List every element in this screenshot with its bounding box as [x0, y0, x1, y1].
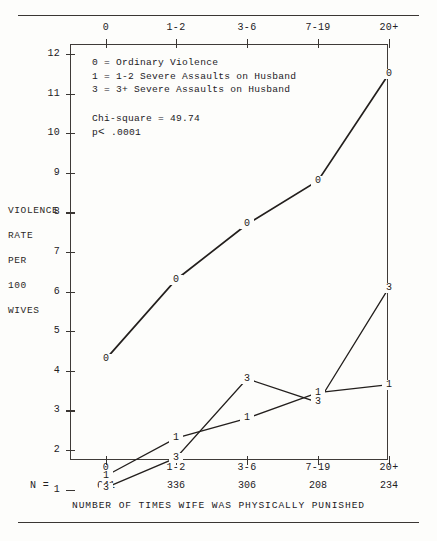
y-axis-tick — [66, 490, 75, 491]
x-axis-tick-top — [247, 39, 248, 48]
y-axis-title-line: RATE — [6, 223, 68, 248]
x-axis-label-top: 0 — [76, 22, 136, 33]
x-axis-tick-top — [176, 39, 177, 48]
data-point-marker-1: 1 — [240, 413, 254, 423]
y-axis-tick-label: 7 — [34, 246, 60, 257]
data-point-marker-0: 0 — [169, 275, 183, 285]
y-axis-tick — [66, 371, 75, 372]
x-axis-label-top: 3-6 — [217, 22, 277, 33]
group-size-value: 336 — [146, 480, 206, 491]
top-horizontal-rule — [18, 15, 419, 16]
y-axis-tick-label: 10 — [34, 127, 60, 138]
x-axis-title: NUMBER OF TIMES WIFE WAS PHYSICALLY PUNI… — [0, 500, 437, 511]
data-point-marker-1: 1 — [382, 380, 396, 390]
y-axis-tick — [66, 94, 75, 95]
x-axis-tick-top — [389, 39, 390, 48]
y-axis-tick — [66, 252, 75, 253]
data-point-marker-3: 3 — [382, 283, 396, 293]
data-point-marker-3: 3 — [240, 374, 254, 384]
y-axis-tick — [66, 54, 75, 55]
y-axis-tick-label: 1 — [34, 484, 60, 495]
y-axis-title-line: WIVES — [6, 298, 68, 323]
chi-square-value: Chi-square = 49.74 — [92, 113, 200, 124]
x-axis-label-bottom: 3-6 — [217, 462, 277, 473]
group-size-value: 306 — [217, 480, 277, 491]
x-axis-tick-top — [318, 39, 319, 48]
data-point-marker-0: 0 — [240, 219, 254, 229]
x-axis-label-top: 20+ — [359, 22, 419, 33]
y-axis-tick — [66, 450, 75, 451]
y-axis-tick-label: 12 — [34, 48, 60, 59]
y-axis-tick — [66, 292, 75, 293]
series-legend: 0 = Ordinary Violence 1 = 1-2 Severe Ass… — [92, 56, 296, 97]
x-axis-label-top: 1-2 — [146, 22, 206, 33]
data-point-marker-1: 1 — [169, 433, 183, 443]
y-axis-tick-label: 6 — [34, 286, 60, 297]
x-axis-label-bottom: 7-19 — [288, 462, 348, 473]
x-axis-label-bottom: 1-2 — [146, 462, 206, 473]
statistics-annotation: Chi-square = 49.74 p< .0001 — [92, 112, 200, 139]
y-axis-tick-label: 2 — [34, 444, 60, 455]
y-axis-tick — [66, 133, 75, 134]
x-axis-label-bottom: 20+ — [359, 462, 419, 473]
data-point-marker-1: 1 — [99, 471, 113, 481]
data-point-marker-0: 0 — [311, 176, 325, 186]
y-axis-tick-label: 9 — [34, 167, 60, 178]
x-axis-tick-top — [106, 39, 107, 48]
y-axis-tick-label: 8 — [34, 206, 60, 217]
p-value: .0001 — [111, 127, 141, 138]
plot-frame — [70, 44, 388, 460]
group-size-value: 208 — [288, 480, 348, 491]
y-axis-tick-label: 5 — [34, 325, 60, 336]
y-axis-tick-label: 3 — [34, 404, 60, 415]
bottom-horizontal-rule — [18, 522, 419, 523]
data-point-marker-3: 3 — [311, 397, 325, 407]
data-point-marker-0: 0 — [382, 69, 396, 79]
y-axis-tick — [66, 212, 75, 213]
x-axis-label-top: 7-19 — [288, 22, 348, 33]
y-axis-tick — [66, 173, 75, 174]
data-point-marker-3: 3 — [99, 483, 113, 493]
less-than-icon: < — [98, 126, 105, 138]
y-axis-tick — [66, 410, 75, 411]
data-point-marker-3: 3 — [169, 453, 183, 463]
y-axis-tick-label: 4 — [34, 365, 60, 376]
y-axis-tick-label: 11 — [34, 88, 60, 99]
group-size-value: 234 — [359, 480, 419, 491]
data-point-marker-0: 0 — [99, 354, 113, 364]
y-axis-tick — [66, 331, 75, 332]
